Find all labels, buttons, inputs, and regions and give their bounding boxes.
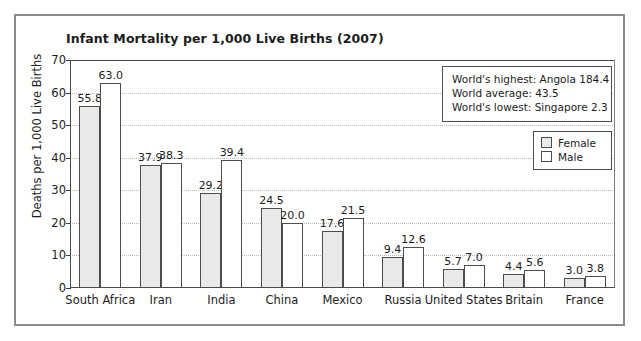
legend-label: Male bbox=[558, 151, 583, 163]
y-axis-tick-labels: 010203040506070 bbox=[22, 60, 66, 288]
legend-item-male[interactable]: Male bbox=[541, 150, 605, 163]
legend-label: Female bbox=[558, 137, 596, 149]
x-axis-label-france: France bbox=[530, 293, 640, 307]
annotation-box: World's highest: Angola 184.4World avera… bbox=[442, 66, 612, 122]
chart-legend: FemaleMale bbox=[533, 131, 612, 170]
chart-figure: Infant Mortality per 1,000 Live Births (… bbox=[0, 0, 641, 341]
legend-swatch-icon bbox=[541, 137, 552, 148]
annotation-line: World's lowest: Singapore 2.3 bbox=[452, 100, 603, 114]
annotation-line: World's highest: Angola 184.4 bbox=[452, 72, 603, 86]
y-axis-title: Deaths per 1,000 Live Births bbox=[30, 21, 44, 251]
legend-item-female[interactable]: Female bbox=[541, 136, 605, 149]
legend-swatch-icon bbox=[541, 151, 552, 162]
y-axis-tick-mark bbox=[66, 288, 71, 289]
chart-title: Infant Mortality per 1,000 Live Births (… bbox=[66, 31, 384, 46]
annotation-line: World average: 43.5 bbox=[452, 86, 603, 100]
